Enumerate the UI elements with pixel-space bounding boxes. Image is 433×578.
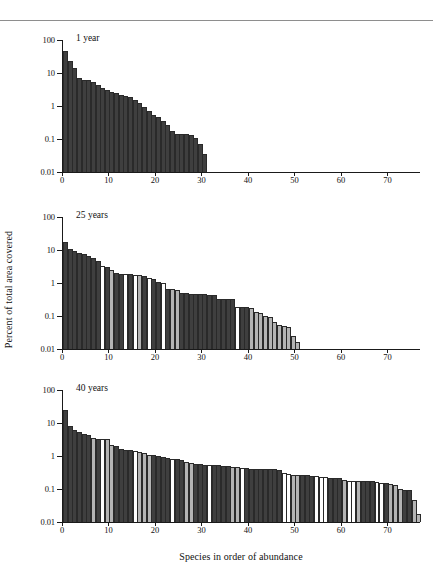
bar-series (63, 390, 420, 522)
y-tick (57, 217, 62, 218)
y-tick-label: 0.01 (41, 345, 55, 354)
figure-rank-abundance: 1 year 0.010.1110100010203040506070 25 y… (0, 0, 433, 578)
page-top-rule (0, 20, 433, 21)
y-tick-label: 1 (51, 279, 55, 288)
x-tick-label: 40 (244, 526, 253, 535)
y-tick (57, 456, 62, 457)
x-tick-label: 60 (337, 526, 346, 535)
x-tick-label: 20 (151, 176, 160, 185)
x-axis-line (62, 349, 420, 350)
x-tick-label: 70 (383, 353, 392, 362)
bar (202, 154, 207, 172)
x-tick-label: 10 (104, 176, 113, 185)
plot-area: 0.010.1110100010203040506070 (62, 217, 420, 349)
y-tick-label: 10 (47, 246, 55, 255)
y-tick-label: 1 (51, 452, 55, 461)
x-tick-label: 0 (60, 526, 64, 535)
y-tick (57, 283, 62, 284)
x-tick-label: 70 (383, 526, 392, 535)
y-tick-label: 0.1 (45, 485, 55, 494)
y-tick (57, 390, 62, 391)
x-axis-line (62, 172, 420, 173)
y-tick (57, 139, 62, 140)
y-tick-label: 100 (43, 213, 55, 222)
y-tick-label: 100 (43, 386, 55, 395)
panel-25-years: 25 years 0.010.1110100010203040506070 (0, 205, 433, 373)
y-tick-label: 0.1 (45, 312, 55, 321)
x-axis-title: Species in order of abundance (62, 551, 420, 562)
x-tick-label: 50 (290, 353, 299, 362)
x-tick-label: 10 (104, 353, 113, 362)
x-tick-label: 30 (197, 353, 206, 362)
x-tick-label: 70 (383, 176, 392, 185)
y-tick (57, 73, 62, 74)
y-tick (57, 250, 62, 251)
x-tick-label: 50 (290, 526, 299, 535)
y-tick-label: 0.01 (41, 168, 55, 177)
bar-series (63, 217, 420, 349)
bar-series (63, 40, 420, 172)
y-tick (57, 489, 62, 490)
x-tick-label: 30 (197, 176, 206, 185)
y-tick (57, 106, 62, 107)
x-tick-label: 10 (104, 526, 113, 535)
x-tick-label: 20 (151, 526, 160, 535)
plot-area: 0.010.1110100010203040506070 (62, 40, 420, 172)
bar (295, 342, 300, 349)
y-axis-title-text: Percent of total area covered (4, 230, 15, 347)
panel-1-year: 1 year 0.010.1110100010203040506070 (0, 28, 433, 196)
y-tick-label: 10 (47, 419, 55, 428)
y-tick (57, 316, 62, 317)
x-tick-label: 40 (244, 176, 253, 185)
y-axis-title: Percent of total area covered (2, 205, 16, 373)
y-tick-label: 0.1 (45, 135, 55, 144)
x-tick-label: 20 (151, 353, 160, 362)
x-tick-label: 30 (197, 526, 206, 535)
y-tick-label: 1 (51, 102, 55, 111)
y-tick-label: 10 (47, 69, 55, 78)
x-tick-label: 0 (60, 353, 64, 362)
plot-area: 0.010.1110100010203040506070 (62, 390, 420, 522)
y-tick-label: 100 (43, 36, 55, 45)
panel-40-years: 40 years 0.010.1110100010203040506070 (0, 378, 433, 550)
x-tick-label: 60 (337, 176, 346, 185)
x-tick-label: 50 (290, 176, 299, 185)
bar (416, 514, 421, 522)
y-tick-label: 0.01 (41, 518, 55, 527)
x-tick-label: 0 (60, 176, 64, 185)
x-tick-label: 60 (337, 353, 346, 362)
y-tick (57, 423, 62, 424)
x-axis-line (62, 522, 420, 523)
x-tick-label: 40 (244, 353, 253, 362)
y-tick (57, 40, 62, 41)
